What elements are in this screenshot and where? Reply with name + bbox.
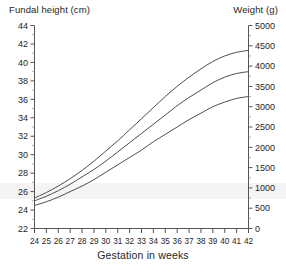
- scan-artifact-band: [0, 183, 286, 199]
- y-axis-right-tick-label: 3000: [255, 102, 275, 112]
- chart-plot-area: 222426283032343638404244 050010001500200…: [0, 0, 286, 273]
- growth-curve-line: [35, 50, 249, 198]
- y-axis-right-tick-label: 4500: [255, 41, 275, 51]
- y-axis-right-tick-label: 1000: [255, 183, 275, 193]
- x-axis: 24252627282930313233343536373839404142: [30, 229, 254, 246]
- x-axis-tick-label: 40: [220, 237, 230, 246]
- y-axis-right-tick-label: 2000: [255, 143, 275, 153]
- y-axis-left-tick-label: 30: [18, 150, 28, 160]
- y-axis-right-tick-label: 4000: [255, 61, 275, 71]
- x-axis-tick-label: 34: [149, 237, 159, 246]
- y-axis-left-tick-label: 34: [18, 113, 28, 123]
- figure-caption: [0, 266, 286, 273]
- x-axis-tick-label: 24: [30, 237, 40, 246]
- x-axis-tick-label: 36: [173, 237, 183, 246]
- x-axis-tick-label: 38: [196, 237, 206, 246]
- x-axis-tick-label: 27: [66, 237, 76, 246]
- y-axis-left: 222426283032343638404244: [18, 21, 35, 234]
- x-axis-tick-label: 25: [42, 237, 52, 246]
- x-axis-tick-label: 35: [161, 237, 171, 246]
- y-axis-left-tick-label: 40: [18, 58, 28, 68]
- y-axis-right-tick-label: 2500: [255, 122, 275, 132]
- x-axis-tick-label: 39: [208, 237, 218, 246]
- x-axis-tick-label: 41: [232, 237, 242, 246]
- y-axis-right-tick-label: 3500: [255, 82, 275, 92]
- growth-curves: [35, 50, 249, 205]
- y-axis-right-tick-label: 5000: [255, 21, 275, 31]
- y-axis-left-tick-label: 44: [18, 21, 28, 31]
- x-axis-tick-label: 29: [89, 237, 99, 246]
- y-axis-left-tick-label: 42: [18, 39, 28, 49]
- x-axis-tick-label: 26: [54, 237, 64, 246]
- y-axis-right: 0500100015002000250030003500400045005000: [249, 21, 276, 234]
- y-axis-left-tick-label: 32: [18, 131, 28, 141]
- y-axis-left-tick-label: 38: [18, 76, 28, 86]
- y-axis-left-tick-label: 22: [18, 224, 28, 234]
- y-axis-right-tick-label: 0: [255, 224, 260, 234]
- x-axis-tick-label: 33: [137, 237, 147, 246]
- y-axis-right-tick-label: 1500: [255, 163, 275, 173]
- x-axis-tick-label: 32: [125, 237, 135, 246]
- y-axis-right-tick-label: 500: [255, 203, 270, 213]
- y-axis-left-tick-label: 28: [18, 168, 28, 178]
- y-axis-left-tick-label: 36: [18, 95, 28, 105]
- y-axis-left-tick-label: 26: [18, 187, 28, 197]
- x-axis-tick-label: 37: [185, 237, 195, 246]
- x-axis-tick-label: 31: [113, 237, 123, 246]
- x-axis-tick-label: 30: [101, 237, 111, 246]
- fetal-growth-chart-figure: Fundal height (cm) Weight (g) 2224262830…: [0, 0, 286, 273]
- x-axis-tick-label: 42: [244, 237, 254, 246]
- y-axis-left-tick-label: 24: [18, 205, 28, 215]
- x-axis-tick-label: 28: [78, 237, 88, 246]
- x-axis-title: Gestation in weeks: [0, 249, 286, 261]
